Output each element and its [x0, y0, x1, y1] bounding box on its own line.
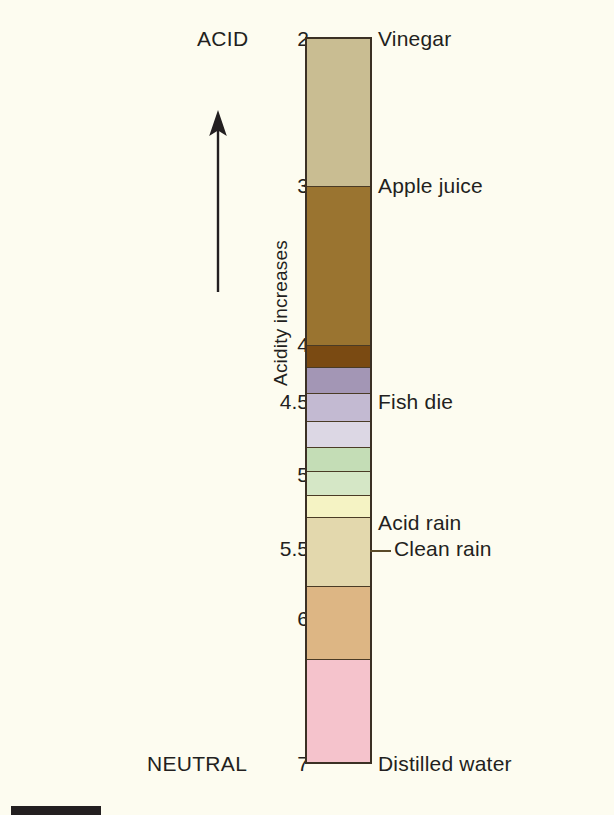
- ph-tick-label: 5: [9, 463, 309, 487]
- ph-item-label-clean-rain: Clean rain: [394, 537, 492, 561]
- ph-item-label-acid-rain: Acid rain: [378, 511, 462, 535]
- acidity-increases-arrow-icon: [206, 110, 230, 292]
- axis-label-acidity-increases: Acidity increases: [270, 213, 296, 413]
- ph-band-purple: [307, 368, 370, 394]
- ph-band-pale-lavender: [307, 422, 370, 448]
- ph-item-label-vinegar: Vinegar: [378, 27, 451, 51]
- ph-tick-label: 4.5: [9, 390, 309, 414]
- ph-tick-label: 2: [9, 27, 309, 51]
- ph-band-light-purple: [307, 394, 370, 422]
- ph-band-dark-brown: [307, 346, 370, 368]
- ph-tick-label: 3: [9, 174, 309, 198]
- ph-item-label-apple-juice: Apple juice: [378, 174, 483, 198]
- ph-band-pale-green: [307, 472, 370, 496]
- ph-band-apple-juice: [307, 187, 370, 346]
- ph-band-vinegar: [307, 39, 370, 187]
- ph-band-green: [307, 448, 370, 472]
- ph-band-pale-yellow: [307, 496, 370, 518]
- leader-line-clean-rain: [370, 550, 391, 552]
- ph-band-acid-rain: [307, 518, 370, 587]
- ph-tick-label: 4: [9, 333, 309, 357]
- ph-band-distilled-water: [307, 660, 370, 762]
- ph-tick-label: 5.5: [9, 537, 309, 561]
- ph-item-label-distilled-water: Distilled water: [378, 752, 512, 776]
- ph-tick-label: 7: [9, 752, 309, 776]
- ph-item-label-fish-die: Fish die: [378, 390, 453, 414]
- ph-tick-label: 6: [9, 607, 309, 631]
- ph-band-clean-rain: [307, 587, 370, 660]
- figure-footer-rule: [11, 806, 101, 815]
- ph-scale-column: [305, 37, 372, 764]
- ph-scale-figure: Acidity increases ACID NEUTRAL 2344.555.…: [0, 0, 614, 815]
